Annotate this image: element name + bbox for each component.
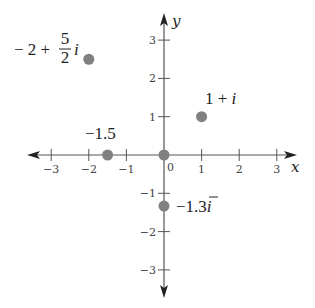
point-label-neg1-5: −1.5 [85,124,116,143]
complex-point [159,150,170,161]
point-labels: − 2 + 5 2 i 1 + i −1.5 −1.3i [14,29,237,216]
x-tick-label: −1 [118,163,134,176]
y-tick-label: −1 [140,187,156,200]
x-tick-label: 2 [236,163,243,176]
x-axis-label: x [291,158,300,176]
x-tick-label: −2 [81,163,97,176]
point-label-1-plus-i: 1 + i [205,89,237,108]
complex-point [196,111,207,122]
y-tick-label: 3 [149,34,156,47]
imaginary-unit: i [74,40,79,59]
x-tick-label: 3 [273,163,280,176]
point-label-neg2-plus-5over2-i: − 2 + [14,40,50,59]
point-label-neg1-3bar-i: −1.3i [176,197,212,216]
complex-plane: xy0 −3−2−1123−3−2−1123 − 2 + 5 2 i 1 + i… [0,0,315,308]
complex-point [159,201,170,212]
fraction-denominator: 2 [61,48,70,67]
y-tick-label: 1 [149,111,156,124]
complex-point [83,54,94,65]
fraction-numerator: 5 [61,29,70,48]
y-tick-label: −3 [140,264,156,277]
x-tick-label: −3 [43,163,59,176]
y-axis-label: y [171,12,181,30]
y-tick-label: 2 [149,72,156,85]
origin-label: 0 [167,161,174,174]
x-tick-label: 1 [198,163,205,176]
y-tick-label: −2 [140,226,156,239]
complex-point [102,150,113,161]
